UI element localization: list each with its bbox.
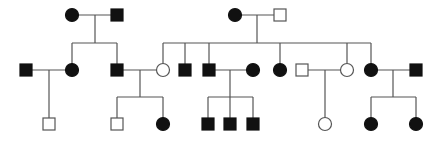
affected-female-iii-9 bbox=[410, 118, 423, 131]
affected-male-iii-4 bbox=[202, 118, 214, 130]
affected-male-ii-5 bbox=[179, 64, 191, 76]
affected-male-iii-6 bbox=[247, 118, 259, 130]
affected-male-ii-3 bbox=[111, 64, 123, 76]
affected-female-i-3 bbox=[229, 9, 242, 22]
relationship-lines bbox=[26, 15, 416, 124]
unaffected-male-ii-9 bbox=[296, 64, 308, 76]
affected-male-ii-1 bbox=[20, 64, 32, 76]
unaffected-male-iii-1 bbox=[43, 118, 55, 130]
affected-male-iii-5 bbox=[224, 118, 236, 130]
affected-male-ii-6 bbox=[203, 64, 215, 76]
affected-female-i-1 bbox=[66, 9, 79, 22]
unaffected-female-iii-7 bbox=[319, 118, 332, 131]
affected-female-ii-2 bbox=[66, 64, 79, 77]
unaffected-female-ii-10 bbox=[341, 64, 354, 77]
unaffected-female-ii-4 bbox=[157, 64, 170, 77]
affected-male-ii-12 bbox=[410, 64, 422, 76]
unaffected-male-iii-2 bbox=[111, 118, 123, 130]
pedigree-chart bbox=[0, 0, 446, 141]
affected-female-ii-7 bbox=[247, 64, 260, 77]
affected-female-iii-8 bbox=[365, 118, 378, 131]
affected-female-iii-3 bbox=[157, 118, 170, 131]
unaffected-male-i-4 bbox=[274, 9, 286, 21]
affected-female-ii-8 bbox=[274, 64, 287, 77]
affected-female-ii-11 bbox=[365, 64, 378, 77]
pedigree-svg bbox=[0, 0, 446, 141]
affected-male-i-2 bbox=[111, 9, 123, 21]
